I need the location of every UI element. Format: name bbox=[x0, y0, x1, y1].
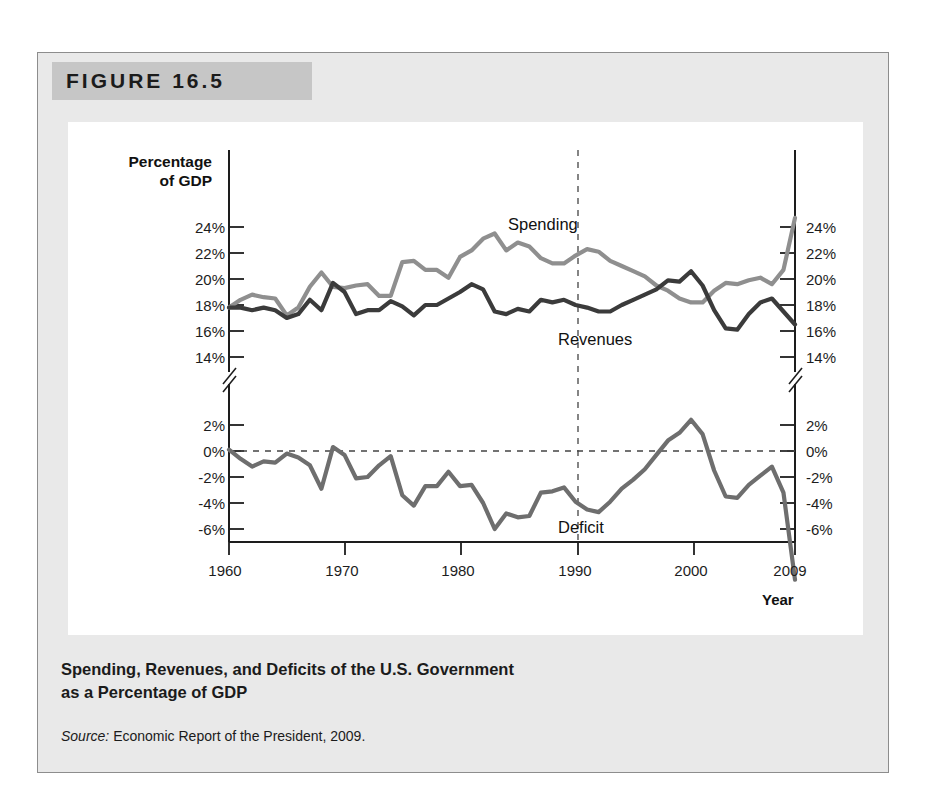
source-prefix: Source: bbox=[61, 728, 109, 744]
series-label-revenues: Revenues bbox=[558, 330, 632, 349]
x-tick-1970: 1970 bbox=[307, 562, 377, 579]
caption-line-2: as a Percentage of GDP bbox=[61, 681, 761, 704]
y-ticks-left-upper bbox=[229, 227, 244, 357]
y-tick-left-14: 14% bbox=[161, 349, 225, 366]
y-axis-title-line2: of GDP bbox=[96, 171, 212, 190]
series-label-deficit: Deficit bbox=[558, 518, 604, 537]
x-axis-title: Year bbox=[762, 591, 794, 608]
y-tick-right-pos2: 2% bbox=[806, 417, 870, 434]
y-tick-right-14: 14% bbox=[806, 349, 870, 366]
y-tick-left-neg6: -6% bbox=[161, 521, 225, 538]
chart-svg-canvas bbox=[68, 122, 863, 635]
figure-number-label: FIGURE 16.5 bbox=[52, 69, 225, 93]
source-text: Economic Report of the President, 2009. bbox=[113, 728, 365, 744]
y-tick-right-zero: 0% bbox=[806, 443, 870, 460]
x-tick-1990: 1990 bbox=[540, 562, 610, 579]
x-tick-1980: 1980 bbox=[423, 562, 493, 579]
x-tick-2009: 2009 bbox=[755, 562, 825, 579]
y-tick-left-zero: 0% bbox=[161, 443, 225, 460]
y-axis-title-line1: Percentage bbox=[96, 152, 212, 171]
figure-page: FIGURE 16.5 Percentage of GDP 24% 22% 20… bbox=[0, 0, 936, 811]
y-tick-right-16: 16% bbox=[806, 323, 870, 340]
y-tick-left-16: 16% bbox=[161, 323, 225, 340]
line-series-deficit bbox=[229, 420, 795, 580]
chart-plot-panel: Percentage of GDP 24% 22% 20% 18% 16% 14… bbox=[68, 122, 863, 635]
figure-number-banner: FIGURE 16.5 bbox=[52, 62, 312, 100]
y-tick-left-22: 22% bbox=[161, 245, 225, 262]
x-ticks bbox=[229, 542, 795, 555]
y-tick-left-neg2: -2% bbox=[161, 469, 225, 486]
y-tick-right-22: 22% bbox=[806, 245, 870, 262]
y-tick-left-24: 24% bbox=[161, 219, 225, 236]
y-tick-left-20: 20% bbox=[161, 271, 225, 288]
y-tick-left-18: 18% bbox=[161, 297, 225, 314]
y-tick-left-pos2: 2% bbox=[161, 417, 225, 434]
y-tick-right-18: 18% bbox=[806, 297, 870, 314]
caption-line-1: Spending, Revenues, and Deficits of the … bbox=[61, 658, 761, 681]
x-tick-2000: 2000 bbox=[656, 562, 726, 579]
y-tick-right-neg4: -4% bbox=[806, 495, 870, 512]
figure-caption: Spending, Revenues, and Deficits of the … bbox=[61, 658, 761, 704]
y-tick-right-20: 20% bbox=[806, 271, 870, 288]
series-label-spending: Spending bbox=[508, 215, 578, 234]
figure-source-note: Source: Economic Report of the President… bbox=[61, 728, 761, 744]
y-ticks-left-lower bbox=[229, 425, 244, 529]
y-tick-left-neg4: -4% bbox=[161, 495, 225, 512]
y-tick-right-24: 24% bbox=[806, 219, 870, 236]
x-tick-1960: 1960 bbox=[190, 562, 260, 579]
y-axis-title: Percentage of GDP bbox=[96, 152, 212, 190]
y-tick-right-neg6: -6% bbox=[806, 521, 870, 538]
y-tick-right-neg2: -2% bbox=[806, 469, 870, 486]
